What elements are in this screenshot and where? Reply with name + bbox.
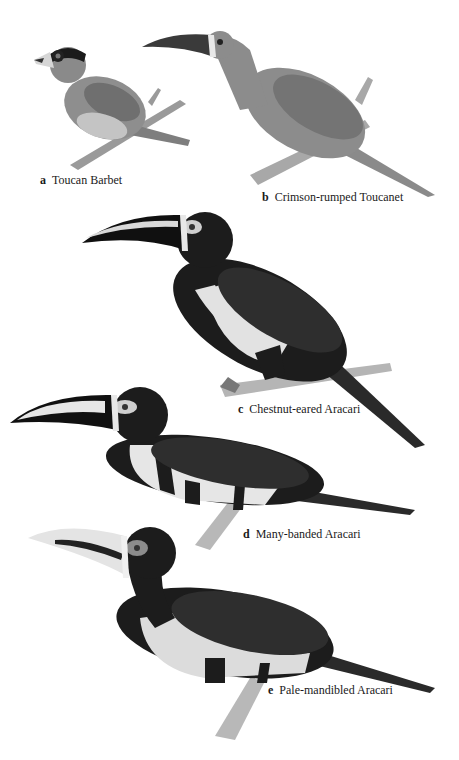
caption-letter: b [262, 190, 269, 204]
caption-pale-mandibled-aracari: ePale-mandibled Aracari [268, 683, 393, 698]
crimson-rumped-toucanet-illustration [140, 25, 440, 197]
caption-crimson-rumped-toucanet: bCrimson-rumped Toucanet [262, 190, 403, 205]
pale-mandibled-aracari-illustration [25, 518, 440, 743]
caption-name: Toucan Barbet [52, 173, 122, 187]
caption-name: Crimson-rumped Toucanet [275, 190, 404, 204]
caption-name: Pale-mandibled Aracari [279, 683, 393, 697]
caption-letter: e [268, 683, 273, 697]
illustration-plate: aToucan Barbet bCrimson-rumped Toucanet [0, 0, 459, 760]
caption-letter: a [40, 173, 46, 187]
caption-toucan-barbet: aToucan Barbet [40, 173, 122, 188]
